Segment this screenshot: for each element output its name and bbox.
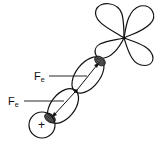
force-label-upper: Fe	[34, 71, 45, 83]
d-orbital-clover	[95, 4, 154, 66]
nucleus-plus-sign: +	[38, 119, 45, 131]
force-label-lower: Fe	[8, 96, 19, 108]
lower-bond-ellipse	[41, 83, 85, 129]
orbital-diagram	[0, 0, 163, 147]
